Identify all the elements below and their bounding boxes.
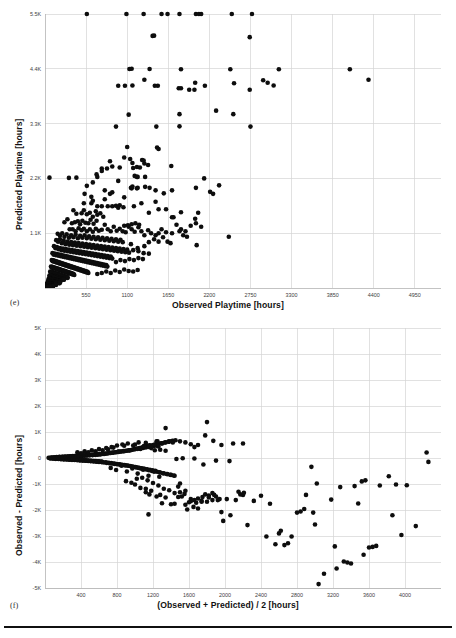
svg-text:3600: 3600	[363, 592, 375, 598]
panel-e-label: (e)	[10, 298, 19, 307]
svg-text:1K: 1K	[34, 429, 41, 435]
panel-f-label: (f)	[10, 601, 18, 610]
svg-text:3850: 3850	[327, 292, 339, 298]
panel-f-plot-svg: 40080012001600200024002800320036004000-5…	[0, 318, 456, 618]
svg-text:4400: 4400	[368, 292, 380, 298]
svg-text:3.3K: 3.3K	[30, 121, 41, 127]
panel-f-y-axis-title: Observed - Predicted [hours]	[14, 435, 24, 556]
svg-text:800: 800	[113, 592, 122, 598]
svg-text:400: 400	[77, 592, 86, 598]
svg-text:0: 0	[38, 455, 41, 461]
svg-text:-2K: -2K	[33, 507, 42, 513]
svg-text:2800: 2800	[291, 592, 303, 598]
footer-divider-rule	[4, 626, 452, 628]
svg-text:4K: 4K	[34, 351, 41, 357]
svg-text:2750: 2750	[244, 292, 256, 298]
figure-container: 550110016502200275033003850440049501.1K2…	[0, 0, 456, 638]
svg-text:3K: 3K	[34, 377, 41, 383]
panel-e-x-axis-title: Observed Playtime [hours]	[0, 300, 456, 310]
svg-text:5.5K: 5.5K	[30, 11, 41, 17]
svg-text:2400: 2400	[255, 592, 267, 598]
svg-text:4950: 4950	[409, 292, 421, 298]
svg-text:-1K: -1K	[33, 481, 42, 487]
svg-text:3200: 3200	[327, 592, 339, 598]
svg-text:2K: 2K	[34, 403, 41, 409]
svg-text:-4K: -4K	[33, 559, 42, 565]
svg-text:3300: 3300	[286, 292, 298, 298]
svg-text:2000: 2000	[219, 592, 231, 598]
panel-e-plot-svg: 550110016502200275033003850440049501.1K2…	[0, 0, 456, 318]
panel-e-y-axis-title: Predicted Playtime [hours]	[14, 119, 24, 230]
svg-text:2200: 2200	[203, 292, 215, 298]
footer-clipped-text	[0, 631, 456, 638]
svg-text:2.2K: 2.2K	[30, 175, 41, 181]
panel-f-x-axis-title: (Observed + Predicted) / 2 [hours]	[0, 600, 456, 610]
svg-text:1600: 1600	[183, 592, 195, 598]
svg-text:1200: 1200	[147, 592, 159, 598]
svg-text:1.1K: 1.1K	[30, 230, 41, 236]
svg-text:5K: 5K	[34, 325, 41, 331]
svg-text:-5K: -5K	[33, 585, 42, 591]
panel-f-scatter: 40080012001600200024002800320036004000-5…	[0, 318, 456, 618]
svg-text:550: 550	[82, 292, 91, 298]
panel-e-scatter: 550110016502200275033003850440049501.1K2…	[0, 0, 456, 318]
svg-text:1650: 1650	[162, 292, 174, 298]
svg-text:4000: 4000	[399, 592, 411, 598]
svg-text:-3K: -3K	[33, 533, 42, 539]
svg-text:1100: 1100	[121, 292, 133, 298]
svg-text:4.4K: 4.4K	[30, 66, 41, 72]
